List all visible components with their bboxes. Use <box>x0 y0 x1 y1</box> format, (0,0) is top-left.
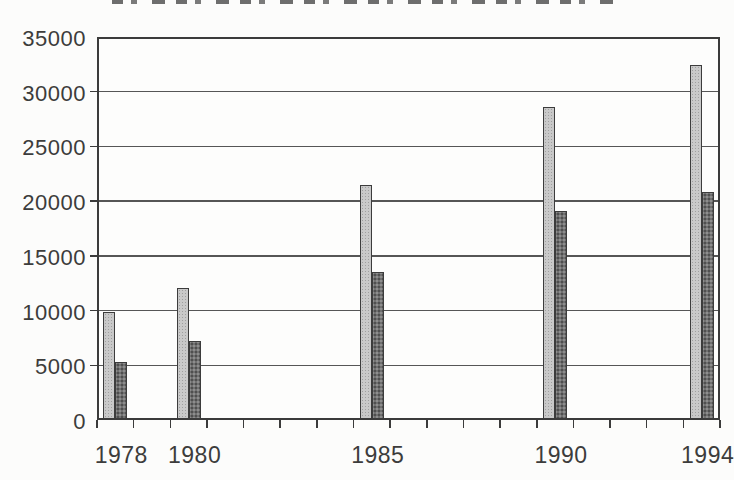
x-axis-tick-1978 <box>96 420 98 428</box>
y-axis-label-0: 0 <box>0 410 86 434</box>
bar-light-gray-series-1985 <box>360 185 372 420</box>
gridline-20000 <box>97 200 720 202</box>
bar-light-gray-series-1978 <box>103 312 115 420</box>
x-axis-tick-1980 <box>170 420 172 428</box>
x-axis-label-1980: 1980 <box>145 443 245 467</box>
gridline-25000 <box>97 146 720 148</box>
y-axis-label-15000: 15000 <box>0 246 86 270</box>
y-axis-tick-20000 <box>90 200 97 202</box>
x-axis-tick-1988 <box>463 420 465 428</box>
x-axis-tick-1991 <box>573 420 575 428</box>
x-axis-tick-1982 <box>243 420 245 428</box>
plot-area <box>97 37 720 420</box>
y-axis-tick-10000 <box>90 310 97 312</box>
y-axis-label-30000: 30000 <box>0 82 86 106</box>
bar-dark-gray-series-1994 <box>702 192 714 420</box>
x-axis-tick-1985 <box>353 420 355 428</box>
y-axis-tick-30000 <box>90 91 97 93</box>
x-axis-label-1990: 1990 <box>511 443 611 467</box>
x-axis-tick-1992 <box>609 420 611 428</box>
x-axis-tick-1984 <box>316 420 318 428</box>
bar-dark-gray-series-1978 <box>115 362 127 420</box>
y-axis-tick-25000 <box>90 146 97 148</box>
x-axis-tick-1994 <box>683 420 685 428</box>
x-axis-tick-1979 <box>133 420 135 428</box>
x-axis-label-1985: 1985 <box>328 443 428 467</box>
x-axis-tick-1987 <box>426 420 428 428</box>
bar-dark-gray-series-1985 <box>372 272 384 420</box>
bar-light-gray-series-1994 <box>690 65 702 420</box>
bar-dark-gray-series-1990 <box>555 211 567 420</box>
y-axis-label-10000: 10000 <box>0 301 86 325</box>
x-axis-tick-1989 <box>499 420 501 428</box>
x-axis-tick-1990 <box>536 420 538 428</box>
x-axis-tick-1986 <box>389 420 391 428</box>
scanned-bar-chart-page: 1978198019851990199405000100001500020000… <box>0 0 734 480</box>
y-axis-label-25000: 25000 <box>0 136 86 160</box>
gridline-15000 <box>97 255 720 257</box>
bar-light-gray-series-1980 <box>177 288 189 420</box>
y-axis-label-35000: 35000 <box>0 27 86 51</box>
x-axis-tick-1995 <box>719 420 721 428</box>
y-axis-label-5000: 5000 <box>0 355 86 379</box>
x-axis-tick-1983 <box>279 420 281 428</box>
bar-dark-gray-series-1980 <box>189 341 201 420</box>
x-axis-tick-1981 <box>206 420 208 428</box>
clipped-title-fragments <box>112 0 618 4</box>
y-axis-tick-15000 <box>90 255 97 257</box>
x-axis-tick-1993 <box>646 420 648 428</box>
y-axis-label-20000: 20000 <box>0 191 86 215</box>
gridline-30000 <box>97 91 720 93</box>
gridline-10000 <box>97 310 720 312</box>
x-axis-label-1994: 1994 <box>658 443 734 467</box>
bar-light-gray-series-1990 <box>543 107 555 420</box>
y-axis-tick-5000 <box>90 365 97 367</box>
